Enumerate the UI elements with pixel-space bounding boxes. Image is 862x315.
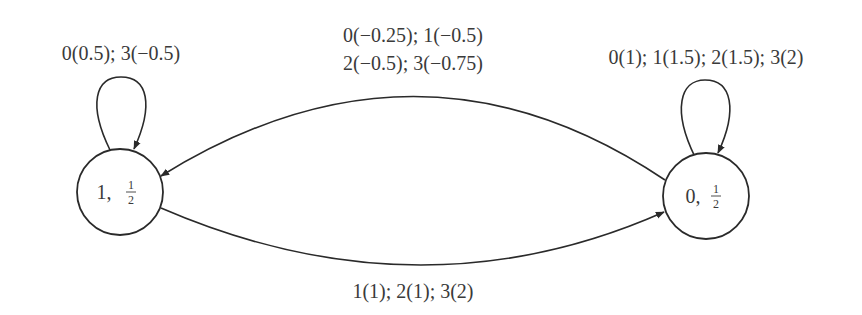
state-diagram: 0(−0.25); 1(−0.5) 2(−0.5); 3(−0.75) 1(1)…: [0, 0, 862, 315]
node-state-0-circle: [663, 153, 749, 239]
node-state-1-circle: [77, 149, 163, 235]
node-state-0-prob-numerator: 1: [713, 182, 719, 196]
self-loop-state-0: 0(1); 1(1.5); 2(1.5); 3(2): [609, 46, 804, 157]
edge-1-to-0-label: 1(1); 2(1); 3(2): [352, 280, 473, 303]
node-state-0-prob-denominator: 2: [713, 197, 719, 211]
edge-1-to-0-arc: [161, 208, 664, 265]
node-state-1-prob-denominator: 2: [128, 193, 134, 207]
edge-1-to-0: 1(1); 2(1); 3(2): [161, 208, 664, 303]
self-loop-state-0-label: 0(1); 1(1.5); 2(1.5); 3(2): [609, 46, 804, 69]
node-state-1-value: 1,: [97, 181, 112, 203]
self-loop-state-1-label: 0(0.5); 3(−0.5): [62, 42, 180, 65]
node-state-0-value: 0,: [686, 185, 701, 207]
node-state-0: 0, 1 2: [663, 153, 749, 239]
edge-0-to-1-label-line2: 2(−0.5); 3(−0.75): [343, 52, 483, 75]
self-loop-state-1: 0(0.5); 3(−0.5): [62, 42, 180, 150]
self-loop-state-1-arc: [97, 77, 146, 150]
edge-0-to-1-label-line1: 0(−0.25); 1(−0.5): [343, 24, 483, 47]
node-state-1: 1, 1 2: [77, 149, 163, 235]
edge-0-to-1-arc: [161, 96, 665, 180]
self-loop-state-0-arc: [681, 80, 729, 157]
edge-0-to-1: 0(−0.25); 1(−0.5) 2(−0.5); 3(−0.75): [161, 24, 665, 180]
node-state-1-prob-numerator: 1: [128, 178, 134, 192]
